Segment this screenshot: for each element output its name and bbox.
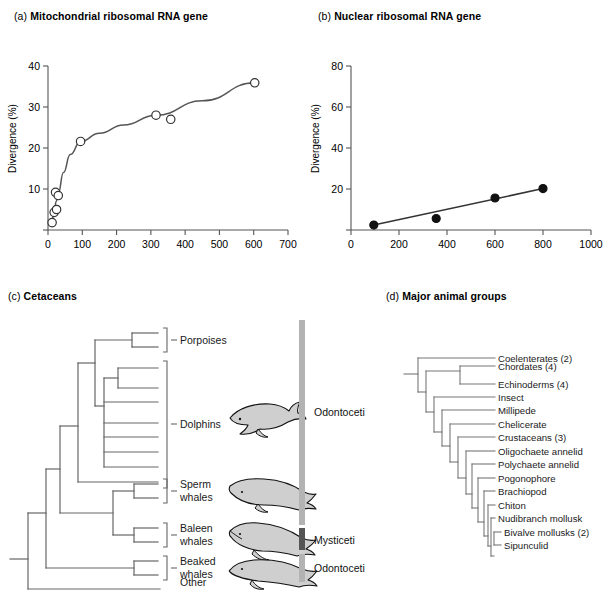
svg-text:400: 400 xyxy=(438,238,456,250)
animal-tree-tip-labels: Coelenterates (2)Chordates (4)Echinoderm… xyxy=(498,353,589,551)
chart-b-y-ticks: 20406080 xyxy=(331,60,351,230)
svg-text:200: 200 xyxy=(390,238,408,250)
animal-tip-label: Brachiopod xyxy=(498,486,547,497)
svg-text:30: 30 xyxy=(28,101,40,113)
svg-text:600: 600 xyxy=(245,238,263,250)
cetacean-tree-svg: Porpoises Dolphins Sperm whales Baleen w… xyxy=(0,306,310,586)
tip-label-baleen-whales-line2: whales xyxy=(179,535,213,547)
panel-b-tag: (b) xyxy=(318,10,331,22)
animal-tree: Coelenterates (2)Chordates (4)Echinoderm… xyxy=(400,340,603,570)
group-label-mysticeti: Mysticeti xyxy=(314,534,355,546)
group-bar-odontoceti-upper xyxy=(299,320,305,525)
animal-tree-branches xyxy=(404,358,501,556)
svg-text:40: 40 xyxy=(331,142,343,154)
chart-a: 10203040 0100200300400500600700 Divergen… xyxy=(0,48,300,248)
animal-tip-label: Chelicerate xyxy=(498,419,547,430)
panel-b-title-text: Nuclear ribosomal RNA gene xyxy=(334,10,481,22)
cetacean-group-bars xyxy=(295,306,310,590)
svg-text:1000: 1000 xyxy=(579,238,603,250)
panel-a-title: (a) Mitochondrial ribosomal RNA gene xyxy=(14,10,208,22)
group-bar-mysticeti xyxy=(299,528,305,550)
tip-label-baleen-whales-line1: Baleen xyxy=(180,522,213,534)
panel-d-tag: (d) xyxy=(386,290,399,302)
svg-text:800: 800 xyxy=(534,238,552,250)
chart-a-points xyxy=(48,79,259,227)
cetacean-tree-branches xyxy=(10,333,160,589)
animal-tip-label: Echinoderms (4) xyxy=(498,379,568,390)
svg-text:700: 700 xyxy=(279,238,297,250)
tip-label-sperm-whales-line1: Sperm xyxy=(180,478,211,490)
svg-text:300: 300 xyxy=(142,238,160,250)
panel-c: (c) Cetaceans xyxy=(8,290,77,302)
chart-b-x-ticks: 02004006008001000 xyxy=(348,230,603,250)
tip-label-sperm-whales-line2: whales xyxy=(179,491,213,503)
svg-text:400: 400 xyxy=(176,238,194,250)
svg-text:20: 20 xyxy=(28,142,40,154)
animal-tip-label: Millipede xyxy=(498,405,536,416)
animal-tip-label: Chiton xyxy=(498,500,526,511)
panel-a: (a) Mitochondrial ribosomal RNA gene xyxy=(14,10,208,22)
chart-b: 20406080 02004006008001000 Divergence (%… xyxy=(303,48,603,248)
chart-a-x-ticks: 0100200300400500600700 xyxy=(45,230,297,250)
animal-tip-label: Bivalve mollusks (2) xyxy=(504,527,589,538)
svg-text:60: 60 xyxy=(331,101,343,113)
panel-c-title: (c) Cetaceans xyxy=(8,290,77,302)
panel-d-title: (d) Major animal groups xyxy=(386,290,507,302)
chart-a-fit-curve xyxy=(51,83,254,224)
panel-d: (d) Major animal groups xyxy=(386,290,507,302)
panel-b-title: (b) Nuclear ribosomal RNA gene xyxy=(318,10,481,22)
panel-d-title-text: Major animal groups xyxy=(402,290,507,302)
animal-tip-label: Pogonophore xyxy=(498,473,556,484)
animal-tip-label: Polychaete annelid xyxy=(498,459,579,470)
tip-label-dolphins: Dolphins xyxy=(180,418,221,430)
svg-text:200: 200 xyxy=(108,238,126,250)
group-label-odontoceti-lower: Odontoceti xyxy=(314,562,365,574)
svg-text:0: 0 xyxy=(348,238,354,250)
chart-b-ylabel: Divergence (%) xyxy=(310,104,321,173)
chart-a-svg: 10203040 0100200300400500600700 Divergen… xyxy=(0,48,300,248)
panel-c-tag: (c) xyxy=(8,290,21,302)
tip-label-other-mammals-line1: Other xyxy=(180,576,207,588)
cetacean-tree: Porpoises Dolphins Sperm whales Baleen w… xyxy=(0,306,310,586)
animal-tip-label: Sipunculid xyxy=(504,540,548,551)
svg-text:600: 600 xyxy=(486,238,504,250)
panel-b: (b) Nuclear ribosomal RNA gene xyxy=(318,10,481,22)
group-bar-odontoceti-lower xyxy=(299,554,305,582)
svg-text:10: 10 xyxy=(28,183,40,195)
chart-b-svg: 20406080 02004006008001000 Divergence (%… xyxy=(303,48,603,248)
animal-tip-label: Nudibranch mollusk xyxy=(498,513,582,524)
tip-label-porpoises: Porpoises xyxy=(180,334,227,346)
tip-label-beaked-whales-line1: Beaked xyxy=(180,555,216,567)
svg-text:20: 20 xyxy=(331,183,343,195)
chart-b-fit-curve xyxy=(374,189,543,225)
svg-text:500: 500 xyxy=(211,238,229,250)
svg-text:80: 80 xyxy=(331,60,343,72)
cetacean-group-bars-svg xyxy=(295,306,310,586)
panel-c-title-text: Cetaceans xyxy=(24,290,77,302)
chart-a-ylabel: Divergence (%) xyxy=(7,104,18,173)
chart-a-y-ticks: 10203040 xyxy=(28,60,48,230)
animal-tip-label: Crustaceans (3) xyxy=(498,432,566,443)
group-label-odontoceti-upper: Odontoceti xyxy=(314,406,365,418)
animal-tip-label: Insect xyxy=(498,392,524,403)
animal-tree-svg: Coelenterates (2)Chordates (4)Echinoderm… xyxy=(400,340,603,570)
cetacean-tree-brackets xyxy=(163,328,177,580)
svg-text:0: 0 xyxy=(45,238,51,250)
panel-a-tag: (a) xyxy=(14,10,27,22)
animal-tip-label: Chordates (4) xyxy=(498,361,557,372)
svg-text:40: 40 xyxy=(28,60,40,72)
animal-tip-label: Oligochaete annelid xyxy=(498,446,583,457)
panel-a-title-text: Mitochondrial ribosomal RNA gene xyxy=(30,10,208,22)
svg-text:100: 100 xyxy=(74,238,92,250)
